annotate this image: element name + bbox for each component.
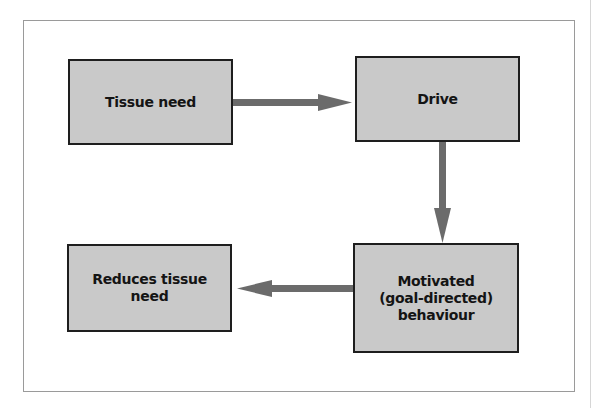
node-reduces-tissue-need: Reduces tissue need bbox=[67, 244, 232, 332]
arrow-drive-to-motivated bbox=[434, 141, 451, 243]
node-tissue-need: Tissue need bbox=[68, 59, 233, 145]
arrow-motivated-to-reduces bbox=[237, 280, 354, 297]
arrow-tissue-need-to-drive bbox=[232, 94, 352, 111]
node-label: Motivated (goal-directed) behaviour bbox=[379, 273, 493, 324]
node-drive: Drive bbox=[355, 56, 520, 142]
node-label: Tissue need bbox=[105, 94, 196, 111]
node-label: Reduces tissue need bbox=[92, 271, 207, 305]
node-label: Drive bbox=[417, 91, 457, 108]
node-motivated-behaviour: Motivated (goal-directed) behaviour bbox=[353, 243, 519, 353]
